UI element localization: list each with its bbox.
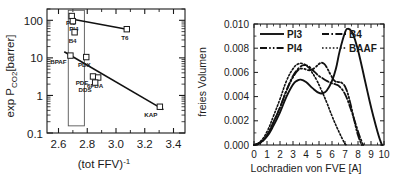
data-point-label: PDX [78,61,92,68]
x-tick-label: 3.4 [166,138,183,150]
y-tick-label: 0.000 [224,140,249,151]
x-tick-label: 7 [342,149,348,160]
data-marker [92,80,97,85]
x-tick-label: 10 [378,149,390,160]
data-point-label: B4 [69,37,77,44]
y-axis-title-main: exp P [4,88,16,118]
data-point-label: BPAF [50,58,67,65]
data-marker [124,26,129,31]
y-tick-label: 1 [37,90,43,102]
y-tick-label: 100 [24,15,43,27]
x-axis-title-left: (tot FFV)-1 [78,157,131,170]
upper-trendline [71,19,126,29]
y-tick-label: 0.002 [224,115,249,126]
data-point-label: KAP [144,111,157,118]
y-axis-title-sub: CO2 [10,71,19,88]
data-marker [90,74,95,79]
svg-text:exp PCO2[barrer]: exp PCO2[barrer] [4,35,19,118]
x-tick-label: 4 [303,149,309,160]
x-axis-title-right: Lochradien von FVE [A] [251,162,362,174]
data-marker [72,30,77,35]
figure-container: 2.62.83.03.23.40.1110100PI3PI4B4T6BPAFPD… [0,0,393,177]
y-tick-label: 0.006 [224,67,249,78]
legend-label-pi3: PI3 [287,29,302,40]
permeability-ffv-svg: 2.62.83.03.23.40.1110100PI3PI4B4T6BPAFPD… [0,0,196,177]
x-tick-label: 2.6 [51,138,67,150]
x-tick-label: 5 [316,149,322,160]
y-axis-title-right: freies Volumen [196,47,208,117]
x-tick-label: 0 [251,149,257,160]
x-tick-label: 3.0 [108,138,124,150]
y-axis-title-unit: [barrer] [4,35,16,72]
svg-text:(tot FFV)-1: (tot FFV)-1 [78,157,131,170]
x-tick-label: 8 [355,149,361,160]
y-axis-title-right-text: freies Volumen [196,47,208,117]
x-axis-title-base: (tot FFV) [78,158,124,170]
x-tick-label: 1 [264,149,270,160]
y-tick-label: 0.004 [224,91,249,102]
y-tick-label: 0.1 [27,128,43,140]
data-marker [68,53,73,58]
data-point-label: T6 [121,34,129,41]
data-marker [69,13,74,18]
y-tick-label: 0.010 [224,19,249,30]
x-axis-title-exponent: -1 [123,157,131,166]
x-tick-label: 9 [368,149,374,160]
y-tick-label: 10 [30,52,43,64]
data-marker [157,104,162,109]
legend-label-b4: B4 [349,29,362,40]
data-marker [84,54,89,59]
legend-label-baaf: BAAF [349,43,377,54]
x-tick-label: 3.2 [137,138,153,150]
y-axis-title-left: exp PCO2[barrer] [4,35,19,118]
y-tick-label: 0.008 [224,43,249,54]
data-point-label: DDS [79,86,92,93]
x-tick-label: 3 [290,149,296,160]
legend-label-pi4: PI4 [287,43,302,54]
x-tick-label: 2.8 [79,138,95,150]
x-axis-title-right-text: Lochradien von FVE [A] [251,162,362,174]
x-tick-label: 6 [329,149,335,160]
free-volume-distribution-plot: 0123456789100.0000.0020.0040.0060.0080.0… [196,0,393,177]
permeability-ffv-plot: 2.62.83.03.23.40.1110100PI3PI4B4T6BPAFPD… [0,0,196,177]
x-tick-label: 2 [277,149,283,160]
free-volume-distribution-svg: 0123456789100.0000.0020.0040.0060.0080.0… [196,0,393,177]
data-marker [70,18,75,23]
